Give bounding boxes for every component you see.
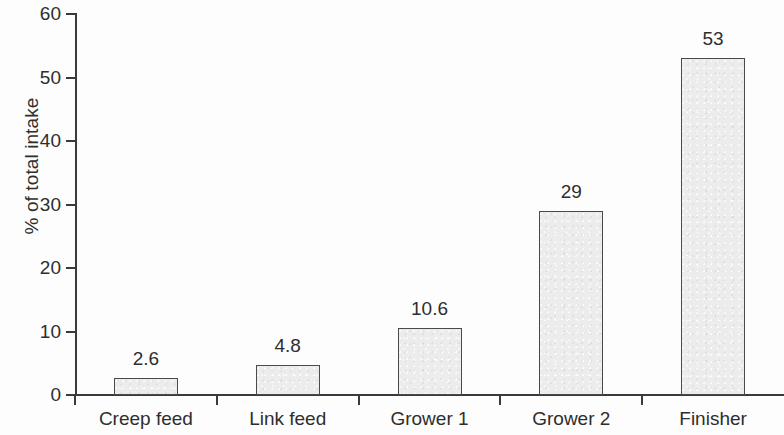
y-axis-tick-label: 50 — [1, 68, 61, 87]
x-axis-tick — [216, 396, 218, 405]
x-axis-tick — [74, 396, 76, 405]
y-axis-tick-label: 0 — [1, 385, 61, 404]
x-axis-tick — [499, 396, 501, 405]
y-axis-tick — [66, 13, 75, 15]
bar — [256, 365, 320, 395]
x-axis-category-label: Grower 1 — [360, 409, 500, 428]
y-axis-title: % of total intake — [21, 66, 43, 266]
bar-value-label: 53 — [653, 29, 773, 48]
bar-value-label: 2.6 — [86, 349, 206, 368]
bar — [114, 378, 178, 395]
y-axis-tick — [66, 204, 75, 206]
bar-chart-figure: % of total intake 0102030405060 2.6Creep… — [0, 0, 784, 435]
bar-value-label: 4.8 — [228, 336, 348, 355]
y-axis-tick — [66, 267, 75, 269]
y-axis-line — [75, 13, 77, 396]
bar — [681, 58, 745, 395]
y-axis-tick — [66, 140, 75, 142]
x-axis-category-label: Link feed — [218, 409, 358, 428]
x-axis-tick — [358, 396, 360, 405]
bar-value-label: 10.6 — [370, 299, 490, 318]
x-axis-category-label: Grower 2 — [501, 409, 641, 428]
x-axis-category-label: Creep feed — [76, 409, 216, 428]
y-axis-tick-label: 30 — [1, 195, 61, 214]
y-axis-tick-label: 10 — [1, 322, 61, 341]
y-axis-tick — [66, 77, 75, 79]
bar — [539, 211, 603, 395]
y-axis-tick — [66, 331, 75, 333]
x-axis-tick — [641, 396, 643, 405]
bar-value-label: 29 — [511, 182, 631, 201]
x-axis-category-label: Finisher — [643, 409, 783, 428]
y-axis-tick-label: 20 — [1, 258, 61, 277]
y-axis-tick-label: 40 — [1, 131, 61, 150]
bar — [398, 328, 462, 395]
y-axis-tick-label: 60 — [1, 4, 61, 23]
